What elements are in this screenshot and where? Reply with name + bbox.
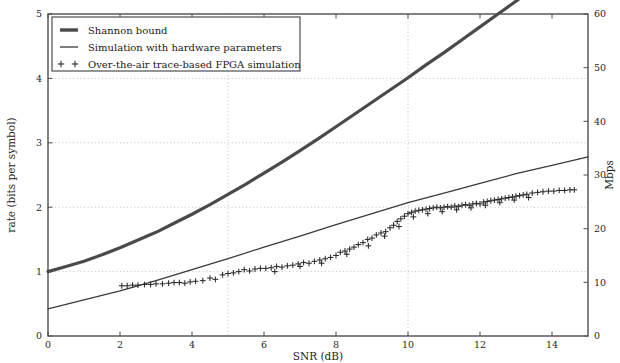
x-tick-label: 14	[546, 339, 558, 350]
y-tick-label: 4	[36, 73, 42, 84]
x-tick-label: 10	[402, 339, 414, 350]
x-tick-label: 8	[333, 339, 339, 350]
y2-tick-label: 50	[594, 62, 606, 73]
chart-svg: 024681012140123450102030405060 Shannon b…	[0, 0, 620, 363]
legend-label: Shannon bound	[88, 25, 168, 36]
y-tick-label: 0	[36, 330, 42, 341]
legend-label: Simulation with hardware parameters	[88, 42, 282, 53]
legend-item[interactable]: Over-the-air trace-based FPGA simulation	[58, 59, 301, 70]
chart-figure: 024681012140123450102030405060 Shannon b…	[0, 0, 620, 363]
x-tick-label: 4	[189, 339, 195, 350]
y2-tick-label: 60	[594, 8, 606, 19]
y2-tick-label: 20	[594, 223, 606, 234]
y-tick-label: 1	[36, 266, 42, 277]
x-tick-label: 2	[117, 339, 123, 350]
x-axis-title: SNR (dB)	[293, 350, 343, 362]
y2-tick-label: 10	[594, 277, 606, 288]
x-tick-label: 12	[474, 339, 486, 350]
scatter-series	[119, 187, 577, 289]
y-axis-title: rate (bits per symbol)	[5, 117, 17, 232]
y2-axis-title: Mbps	[603, 160, 615, 190]
legend-item[interactable]: Simulation with hardware parameters	[60, 42, 282, 53]
x-tick-label: 0	[45, 339, 51, 350]
x-tick-label: 6	[261, 339, 267, 350]
chart-legend: Shannon boundSimulation with hardware pa…	[52, 17, 301, 71]
y-tick-label: 2	[36, 202, 42, 213]
y2-tick-label: 40	[594, 116, 606, 127]
y-tick-label: 5	[36, 8, 42, 19]
y-tick-label: 3	[36, 137, 42, 148]
legend-label: Over-the-air trace-based FPGA simulation	[88, 59, 301, 70]
axis-titles: SNR (dB)rate (bits per symbol)Mbps	[5, 117, 615, 362]
y2-tick-label: 0	[594, 330, 600, 341]
